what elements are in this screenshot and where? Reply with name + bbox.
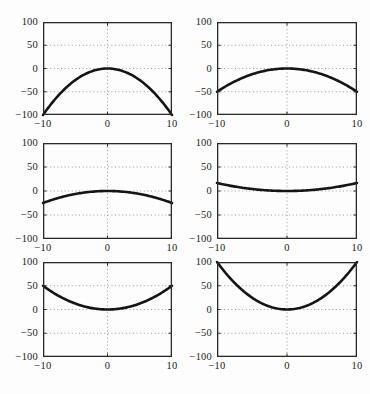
y-tick-label: −50: [195, 210, 212, 221]
plot-canvas: [43, 22, 172, 115]
subplot-bottom-left: 100500−50−100−10010: [43, 262, 172, 357]
y-tick-label: 50: [27, 162, 38, 173]
x-tick-label: 0: [284, 119, 289, 130]
y-tick-label: −50: [195, 328, 212, 339]
y-tick-label: 50: [201, 40, 212, 51]
x-tick-label: 10: [167, 361, 178, 372]
subplot-bottom-right: 100500−50−100−10010: [217, 262, 357, 357]
y-tick-label: 0: [33, 304, 38, 315]
subplot-top-right: 100500−50−100−10010: [217, 22, 357, 115]
x-tick-label: 10: [167, 243, 178, 254]
parabola-curve: [43, 69, 172, 116]
y-tick-label: 100: [22, 257, 38, 268]
y-tick-label: 100: [22, 17, 38, 28]
figure: 100500−50−100−10010 100500−50−100−10010 …: [0, 0, 370, 394]
y-tick-label: 0: [33, 186, 38, 197]
y-tick-label: 50: [27, 40, 38, 51]
subplot-middle-left: 100500−50−100−10010: [43, 143, 172, 239]
y-tick-label: −50: [21, 87, 38, 98]
y-tick-label: 0: [207, 304, 212, 315]
plot-canvas: [43, 143, 172, 239]
y-tick-label: 0: [207, 63, 212, 74]
y-tick-label: 50: [27, 281, 38, 292]
x-tick-label: 10: [352, 243, 363, 254]
subplot-top-left: 100500−50−100−10010: [43, 22, 172, 115]
y-tick-label: 0: [207, 186, 212, 197]
plot-canvas: [217, 262, 357, 357]
subplot-middle-right: 100500−50−100−10010: [217, 143, 357, 239]
x-tick-label: 0: [284, 243, 289, 254]
y-tick-label: 100: [196, 257, 212, 268]
x-tick-label: 0: [105, 361, 110, 372]
plot-canvas: [217, 143, 357, 239]
y-tick-label: 100: [196, 138, 212, 149]
y-tick-label: 100: [196, 17, 212, 28]
y-tick-label: 50: [201, 281, 212, 292]
x-tick-label: 10: [352, 361, 363, 372]
x-tick-label: −10: [34, 361, 51, 372]
y-tick-label: 50: [201, 162, 212, 173]
x-tick-label: −10: [34, 119, 51, 130]
x-tick-label: −10: [208, 119, 225, 130]
y-tick-label: −50: [195, 87, 212, 98]
x-tick-label: 0: [284, 361, 289, 372]
y-tick-label: −50: [21, 328, 38, 339]
y-tick-label: −50: [21, 210, 38, 221]
y-tick-label: 0: [33, 63, 38, 74]
x-tick-label: −10: [208, 243, 225, 254]
x-tick-label: 10: [167, 119, 178, 130]
x-tick-label: 0: [105, 243, 110, 254]
y-tick-label: 100: [22, 138, 38, 149]
plot-canvas: [217, 22, 357, 115]
x-tick-label: −10: [34, 243, 51, 254]
x-tick-label: 0: [105, 119, 110, 130]
plot-canvas: [43, 262, 172, 357]
x-tick-label: 10: [352, 119, 363, 130]
x-tick-label: −10: [208, 361, 225, 372]
